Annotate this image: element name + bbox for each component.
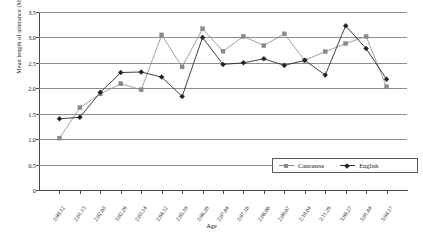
data-point-cantonese [262, 44, 266, 48]
data-point-cantonese [344, 42, 348, 46]
legend-square-marker-icon [279, 162, 294, 169]
x-tick-label: 2;05,10 [174, 205, 189, 222]
x-tick-label: 2;01,13 [72, 205, 87, 222]
data-point-cantonese [160, 33, 164, 37]
y-tick-label: 2.0 [28, 85, 36, 92]
x-tick-mark [59, 190, 60, 194]
x-tick-label: 2;00,12 [52, 205, 67, 222]
x-tick-mark [305, 190, 306, 194]
x-tick-mark [243, 190, 244, 194]
data-point-english [261, 56, 266, 61]
data-point-cantonese [282, 32, 286, 36]
data-point-cantonese [364, 34, 368, 38]
x-tick-mark [366, 190, 367, 194]
data-point-cantonese [139, 88, 143, 92]
data-point-cantonese [221, 49, 225, 53]
series-line-english [59, 26, 386, 119]
legend-item-cantonese: Cantonese [279, 162, 324, 169]
x-tick-label: 2;09,07 [277, 205, 292, 222]
x-tick-mark [387, 190, 388, 194]
y-tick-label: 1.5 [28, 110, 36, 117]
x-tick-label: 2;08,08 [256, 205, 271, 222]
y-tick-label: 1.0 [28, 136, 36, 143]
x-tick-label: 3;04,17 [379, 205, 394, 222]
x-axis-title: Age [0, 222, 423, 229]
data-point-english [57, 116, 62, 121]
x-tick-mark [284, 190, 285, 194]
legend-diamond-marker-icon [340, 162, 355, 169]
chart-figure: Mean length of utterance (MLU(w)) 00.51.… [0, 0, 423, 240]
x-tick-mark [325, 190, 326, 194]
legend-item-english: English [340, 162, 378, 169]
x-tick-mark [182, 190, 183, 194]
data-point-cantonese [78, 106, 82, 110]
x-tick-mark [80, 190, 81, 194]
x-tick-label: 2;02,03 [93, 205, 108, 222]
data-point-cantonese [323, 50, 327, 54]
x-tick-mark [141, 190, 142, 194]
data-point-english [282, 63, 287, 68]
x-tick-mark [223, 190, 224, 194]
plot-area: 00.51.01.52.02.53.03.5 2;00,122;01,132;0… [39, 12, 407, 190]
x-tick-mark [100, 190, 101, 194]
data-point-cantonese [119, 82, 123, 86]
data-point-english [241, 60, 246, 65]
legend-label-english: English [359, 162, 378, 169]
data-point-cantonese [57, 136, 61, 140]
x-tick-label: 2;07,04 [215, 205, 230, 222]
x-tick-label: 3;02,29 [113, 205, 128, 222]
x-tick-label: 2;03,14 [134, 205, 149, 222]
data-point-english [384, 77, 389, 82]
x-tick-mark [346, 190, 347, 194]
y-tick-mark [36, 190, 39, 191]
x-tick-label: 2;04,12 [154, 205, 169, 222]
x-tick-label: 2;06,20 [195, 205, 210, 222]
x-tick-label: 3;01,04 [358, 205, 373, 222]
y-axis-title: Mean length of utterance (MLU(w)) [15, 0, 29, 112]
x-tick-mark [203, 190, 204, 194]
y-tick-label: 0 [33, 187, 36, 194]
data-point-cantonese [180, 65, 184, 69]
x-tick-mark [121, 190, 122, 194]
legend-label-cantonese: Cantonese [298, 162, 324, 169]
x-tick-mark [162, 190, 163, 194]
x-tick-label: 3;00,27 [338, 205, 353, 222]
chart-legend: Cantonese English [272, 158, 418, 173]
data-point-cantonese [385, 85, 389, 89]
x-tick-label: 2;07,18 [236, 205, 251, 222]
y-tick-label: 2.5 [28, 59, 36, 66]
y-tick-label: 0.5 [28, 161, 36, 168]
data-point-cantonese [201, 27, 205, 31]
series-markers-english [57, 23, 389, 121]
x-tick-mark [264, 190, 265, 194]
series-markers-cantonese [57, 27, 388, 140]
x-tick-label: 2;10,04 [297, 205, 312, 222]
data-point-cantonese [241, 34, 245, 38]
data-point-english [139, 70, 144, 75]
x-tick-label: 2;11,29 [318, 205, 333, 222]
y-tick-label: 3.0 [28, 34, 36, 41]
y-tick-label: 3.5 [28, 9, 36, 16]
